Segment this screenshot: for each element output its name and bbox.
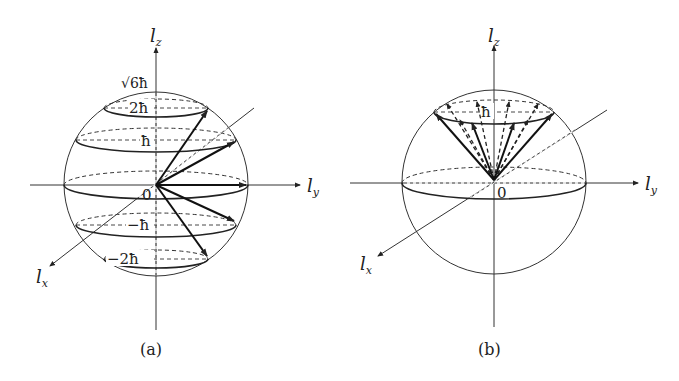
lz-label-b: lz	[488, 25, 500, 49]
figure-a: lz ly lx √6ħ 2ħ ħ 0 −ħ −2ħ (a)	[30, 25, 320, 359]
vector-m2	[156, 111, 207, 185]
vector-m-2	[156, 185, 207, 256]
lx-label-a: lx	[36, 266, 49, 290]
radius-label: √6ħ	[121, 75, 148, 91]
ly-label-a: ly	[307, 175, 320, 199]
origin-label-b: 0	[497, 184, 507, 202]
level-label-neg-2hbar: −2ħ	[107, 250, 139, 268]
figure-b: ħ 0 lz ly lx (b)	[350, 25, 658, 359]
lz-label-a: lz	[150, 25, 162, 49]
caption-b: (b)	[478, 340, 501, 359]
caption-a: (a)	[140, 340, 162, 359]
vector-back-5	[460, 120, 494, 180]
level-label-neg-hbar: −ħ	[127, 216, 150, 234]
origin-label-a: 0	[142, 186, 152, 204]
lx-label-b: lx	[360, 253, 373, 277]
vector-m1	[156, 142, 234, 185]
level-label-2hbar: 2ħ	[129, 99, 149, 117]
level-label-hbar: ħ	[141, 132, 151, 150]
level-label-hbar-b: ħ	[481, 103, 491, 121]
ly-label-b: ly	[645, 173, 658, 197]
diagram-canvas: lz ly lx √6ħ 2ħ ħ 0 −ħ −2ħ (a)	[0, 0, 679, 381]
